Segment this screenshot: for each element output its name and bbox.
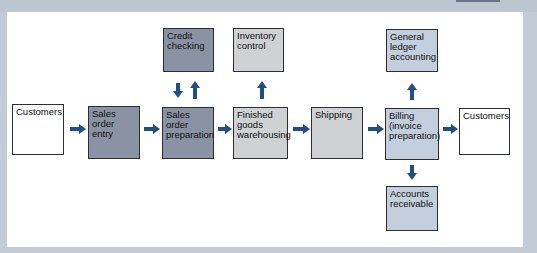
arrow-warehousing-to-shipping: [293, 127, 304, 131]
node-customers-in: Customers: [12, 104, 64, 155]
node-shipping: Shipping: [311, 107, 363, 159]
arrow-billing-to-customers: [443, 127, 452, 131]
arrow-preparation-to-credit: [193, 87, 197, 99]
node-customers-out: Customers: [459, 108, 510, 155]
node-general-ledger-accounting: General ledger accounting: [386, 29, 438, 72]
arrow-entry-to-preparation: [144, 127, 154, 131]
node-inventory-control: Inventory control: [233, 28, 284, 72]
node-finished-goods-warehousing: Finished goods warehousing: [233, 107, 288, 159]
node-sales-order-preparation: Sales order preparation: [162, 107, 214, 159]
arrow-billing-to-ledger: [410, 89, 414, 100]
arrow-shipping-to-billing: [368, 127, 378, 131]
arrow-customers-to-entry: [70, 127, 80, 131]
node-billing: Billing (invoice preparation): [385, 108, 439, 160]
top-frame-bar: [0, 0, 537, 12]
arrow-warehousing-to-inventory: [260, 87, 264, 99]
node-credit-checking: Credit checking: [163, 28, 214, 72]
node-accounts-receivable: Accounts receivable: [386, 186, 438, 231]
arrow-billing-to-receivable: [410, 165, 414, 174]
arrow-preparation-to-warehousing: [218, 127, 226, 131]
frame-tab: [456, 0, 500, 2]
node-sales-order-entry: Sales order entry: [88, 106, 140, 159]
arrow-credit-to-preparation: [176, 83, 180, 92]
